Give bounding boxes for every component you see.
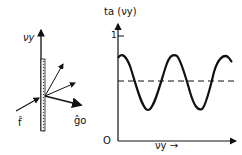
axis-label-nu-y: νy (23, 33, 35, 43)
origin-label: O (103, 136, 111, 146)
incident-label: f̂ (18, 118, 22, 128)
graph-x-label: νy → (155, 141, 178, 151)
diffracted-label: ĝo (74, 116, 86, 126)
graph-y-label: ta (νy) (104, 7, 137, 17)
y-tick-1: 1 (111, 31, 117, 40)
diagram-canvas (0, 0, 242, 155)
diffracted-arrows (45, 64, 81, 105)
incident-arrow (16, 98, 39, 111)
grating (41, 59, 45, 131)
transmission-curve (118, 55, 232, 110)
